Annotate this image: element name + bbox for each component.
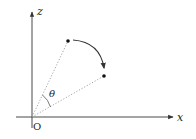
origin-label: O — [33, 121, 41, 132]
z-axis-label: z — [36, 5, 43, 18]
x-axis-label: x — [177, 111, 184, 124]
polar-rotation-diagram: z x O θ — [0, 0, 196, 139]
final-point — [102, 74, 106, 78]
initial-point — [66, 39, 70, 43]
theta-label: θ — [49, 88, 55, 99]
rotation-arrow-icon — [73, 40, 104, 68]
radius-line-final — [32, 76, 104, 117]
